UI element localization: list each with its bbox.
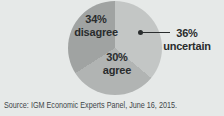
uncertain-callout-dot-icon bbox=[138, 30, 143, 35]
agree-percent: 30% bbox=[89, 51, 145, 64]
chart-panel: 34% disagree 30% agree 36% uncertain Sou… bbox=[0, 0, 224, 116]
disagree-percent: 34% bbox=[68, 13, 124, 26]
slice-label-disagree: 34% disagree bbox=[68, 13, 124, 38]
source-caption: Source: IGM Economic Experts Panel, June… bbox=[4, 100, 177, 110]
disagree-text: disagree bbox=[68, 26, 124, 39]
agree-text: agree bbox=[89, 64, 145, 77]
slice-label-agree: 30% agree bbox=[89, 51, 145, 76]
uncertain-text: uncertain bbox=[158, 40, 216, 53]
uncertain-callout-line bbox=[141, 32, 170, 33]
slice-label-uncertain: 36% uncertain bbox=[158, 27, 216, 52]
